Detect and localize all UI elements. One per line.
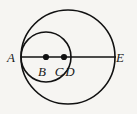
point-dot-c	[61, 54, 67, 60]
point-label-e: E	[115, 50, 124, 65]
point-dot-b	[43, 54, 49, 60]
geometry-figure: A B C D E	[0, 0, 137, 114]
point-label-d: D	[64, 64, 75, 79]
point-label-a: A	[6, 50, 15, 65]
point-label-c: C	[55, 64, 64, 79]
point-label-b: B	[38, 64, 46, 79]
geometry-canvas: A B C D E	[0, 0, 137, 114]
